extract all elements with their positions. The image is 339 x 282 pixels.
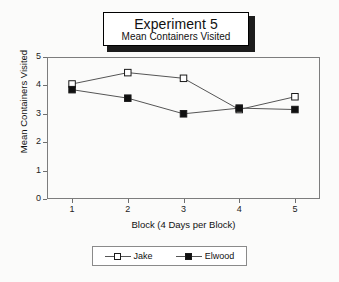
x-tick-mark-1 <box>72 199 73 203</box>
x-tick-label-3: 3 <box>174 205 194 214</box>
x-axis-label: Block (4 Days per Block) <box>47 219 320 230</box>
legend-line-icon-elwood <box>176 252 202 261</box>
data-point-elwood-block-4 <box>236 105 243 112</box>
x-tick-mark-2 <box>128 199 129 203</box>
x-tick-mark-5 <box>295 199 296 203</box>
open-square-icon <box>114 253 121 260</box>
chart-subtitle: Mean Containers Visited <box>122 32 231 42</box>
series-markers-jake <box>69 69 298 112</box>
series-markers-elwood <box>69 86 298 117</box>
legend-line-icon-jake <box>105 252 131 261</box>
x-tick-label-2: 2 <box>118 205 138 214</box>
y-tick-label-0: 0 <box>19 194 41 203</box>
data-point-elwood-block-2 <box>125 95 132 102</box>
data-point-elwood-block-5 <box>292 106 299 113</box>
x-tick-mark-3 <box>184 199 185 203</box>
chart-legend: Jake Elwood <box>92 246 247 266</box>
data-point-elwood-block-3 <box>180 111 187 118</box>
x-tick-label-5: 5 <box>285 205 305 214</box>
y-tick-mark-0 <box>43 199 47 200</box>
chart-figure: Experiment 5 Mean Containers Visited 012… <box>0 0 339 282</box>
y-tick-mark-4 <box>43 85 47 86</box>
y-axis-label: Mean Containers Visited <box>18 42 29 162</box>
y-tick-label-1: 1 <box>19 166 41 175</box>
y-tick-mark-1 <box>43 171 47 172</box>
plot-series-layer <box>47 57 320 199</box>
legend-label-jake: Jake <box>134 251 153 261</box>
x-tick-label-1: 1 <box>62 205 82 214</box>
legend-label-elwood: Elwood <box>205 251 235 261</box>
data-point-jake-block-5 <box>292 94 299 101</box>
filled-square-icon <box>185 253 192 260</box>
chart-title: Experiment 5 <box>134 17 218 31</box>
y-tick-mark-3 <box>43 114 47 115</box>
chart-title-box: Experiment 5 Mean Containers Visited <box>103 12 249 46</box>
y-tick-mark-5 <box>43 57 47 58</box>
y-tick-mark-2 <box>43 142 47 143</box>
legend-entry-elwood: Elwood <box>176 251 235 261</box>
x-tick-mark-4 <box>239 199 240 203</box>
legend-entry-jake: Jake <box>105 251 153 261</box>
data-point-jake-block-3 <box>180 75 187 82</box>
data-point-jake-block-2 <box>125 69 132 75</box>
data-point-elwood-block-1 <box>69 86 76 93</box>
x-tick-label-4: 4 <box>229 205 249 214</box>
